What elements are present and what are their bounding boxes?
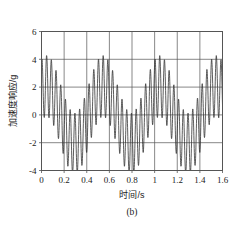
x-tick-label: 1.4 <box>194 175 206 185</box>
x-tick-label: 1.6 <box>217 175 229 185</box>
x-tick-label: 0 <box>39 175 44 185</box>
x-tick-label: 0.2 <box>59 175 70 185</box>
y-tick-label: 6 <box>32 27 37 37</box>
x-tick-label: 0.4 <box>81 175 93 185</box>
y-tick-label: -2 <box>29 138 37 148</box>
x-tick-label: 1.2 <box>172 175 183 185</box>
chart-canvas: 00.20.40.60.811.21.41.6 -4-20246 时间/s 加速… <box>0 0 236 226</box>
figure-caption: (b) <box>126 207 137 218</box>
x-tick-label: 1 <box>152 175 157 185</box>
y-tick-label: 4 <box>32 55 37 65</box>
y-axis-label: 加速度响应/g <box>7 75 18 128</box>
figure-panel: 00.20.40.60.811.21.41.6 -4-20246 时间/s 加速… <box>0 0 236 226</box>
x-axis-label: 时间/s <box>119 189 145 200</box>
y-tick-label: -4 <box>29 166 37 176</box>
x-tick-label: 0.6 <box>104 175 116 185</box>
y-tick-label: 0 <box>32 110 37 120</box>
y-tick-label: 2 <box>32 82 37 92</box>
x-tick-label: 0.8 <box>126 175 138 185</box>
x-tick-labels: 00.20.40.60.811.21.41.6 <box>39 175 228 185</box>
